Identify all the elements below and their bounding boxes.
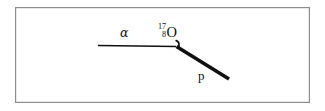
- proton-label: p: [198, 69, 205, 82]
- element-symbol: O: [167, 25, 177, 40]
- nuclide-index-group: 17 8: [158, 22, 166, 39]
- atomic-number: 8: [162, 31, 166, 39]
- alpha-particle-label: α: [120, 27, 128, 40]
- figure-root: α 17 8 O p: [0, 0, 325, 111]
- oxygen-17-nucleus-label: 17 8 O: [158, 22, 177, 39]
- alpha-particle-track: [98, 46, 176, 47]
- particle-track-canvas: [0, 0, 325, 111]
